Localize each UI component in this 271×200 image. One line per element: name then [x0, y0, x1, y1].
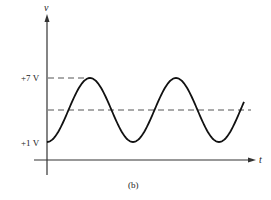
x-axis-arrow-icon	[248, 158, 256, 163]
y-axis-arrow-icon	[45, 14, 50, 22]
upper-tick-label: +7 V	[21, 73, 40, 83]
sinusoid-figure: v t +7 V +1 V (b)	[0, 0, 271, 200]
sinusoid-curve	[47, 78, 244, 142]
x-axis-label: t	[259, 154, 262, 165]
lower-tick-label: +1 V	[21, 138, 40, 148]
figure-caption: (b)	[128, 180, 139, 190]
y-axis-label: v	[44, 2, 49, 13]
